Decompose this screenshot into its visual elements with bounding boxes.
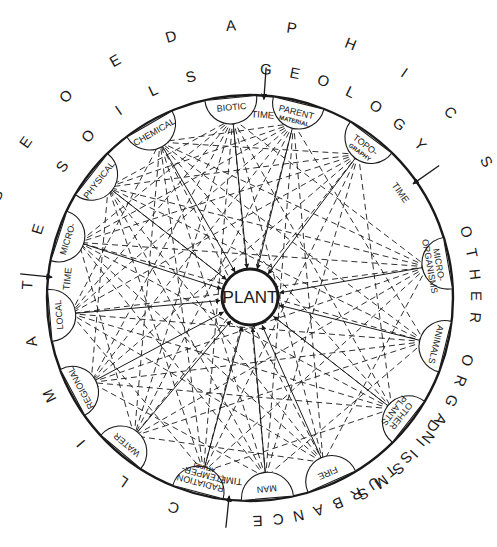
ring-letter: S	[184, 67, 198, 86]
ring-letter: P	[286, 19, 298, 37]
time-label: TIME	[60, 267, 73, 291]
ring-letter: E	[289, 64, 302, 83]
ring-letter: R	[451, 373, 471, 389]
ring-letter: C	[272, 511, 285, 529]
ring-letter: E	[468, 291, 485, 301]
node-label: MAN	[256, 483, 277, 495]
ring-letter: G	[442, 392, 462, 410]
ring-letter: T	[18, 280, 36, 290]
ring-letter: O	[315, 71, 331, 91]
ring-letter: O	[457, 224, 477, 240]
ring-letter: O	[367, 96, 386, 117]
ring-label-other-organisms: OTHERORGANISMS	[355, 224, 485, 504]
ring-letter: H	[466, 268, 484, 281]
ring-letter: E	[16, 133, 36, 151]
ring-letter: S	[477, 153, 497, 170]
ring-letter: G	[390, 114, 410, 135]
ring-letter: D	[163, 26, 178, 45]
ring-letter: A	[311, 501, 326, 520]
ring-letter: O	[78, 126, 98, 146]
ring-letter: L	[343, 82, 358, 101]
plant-environment-diagram: GEOEDAPHICSSOILSGEOLOGYOTHERORGANISMSDIS…	[0, 0, 497, 547]
node-man: MAN	[242, 472, 294, 500]
ring-letter: M	[39, 387, 60, 406]
ring-letter: B	[330, 494, 346, 514]
ring-letter: T	[463, 247, 481, 259]
ring-letter: I	[112, 102, 125, 118]
ring-letter: C	[441, 102, 461, 122]
time-label: TIME	[219, 474, 243, 487]
ring-letter: I	[73, 437, 89, 451]
node-biotic: BIOTIC	[205, 95, 257, 123]
ring-letter: N	[292, 507, 306, 526]
ring-letter: E	[106, 50, 123, 70]
ring-letter: E	[252, 513, 263, 530]
time-label: TIME	[251, 108, 274, 121]
ring-letter: I	[398, 64, 411, 80]
ring-letter: C	[165, 498, 181, 518]
ring-letter: E	[28, 222, 47, 237]
ring-letter: O	[458, 352, 478, 368]
ring-letter: A	[225, 16, 236, 34]
ring-letter: L	[115, 472, 132, 491]
ring-letter: L	[146, 81, 161, 100]
ring-letter: S	[52, 157, 72, 175]
ring-letter: O	[56, 86, 76, 106]
plant-node: PLANT	[222, 269, 278, 325]
time-arrow-icon	[413, 166, 439, 184]
node-local: LOCAL	[47, 290, 75, 342]
node-micro-organisms: MICRO-ORGANISMS	[420, 237, 452, 294]
ring-letter: R	[467, 312, 485, 324]
ring-letter: G	[0, 187, 6, 204]
ring-letter: H	[343, 34, 359, 54]
ring-letter: Y	[411, 135, 430, 154]
node-other-plants: OTHERPLANTS	[379, 394, 424, 443]
node-topography: TOPO-GRAPHY	[345, 122, 392, 164]
time-label: TIME	[390, 180, 412, 205]
time-right-marker: TIME	[390, 166, 440, 205]
ring-letter: A	[22, 335, 41, 348]
plant-label: PLANT	[223, 288, 278, 307]
